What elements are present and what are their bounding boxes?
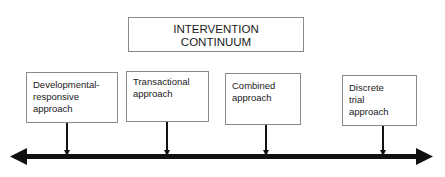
left-arrowhead-icon	[10, 148, 27, 165]
continuum-line	[24, 154, 420, 159]
continuum-arrow	[0, 0, 445, 177]
right-arrowhead-icon	[416, 148, 433, 165]
